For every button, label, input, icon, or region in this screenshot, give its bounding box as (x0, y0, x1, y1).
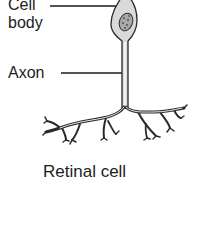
retinal-cell-illustration (0, 0, 208, 226)
diagram-caption: Retinal cell (43, 163, 126, 181)
cell-body-label-line1: Cell (8, 0, 43, 14)
cell-body-label-line2: body (8, 14, 43, 32)
cell-body-label: Cell body (8, 0, 43, 32)
axon-label: Axon (8, 64, 44, 82)
